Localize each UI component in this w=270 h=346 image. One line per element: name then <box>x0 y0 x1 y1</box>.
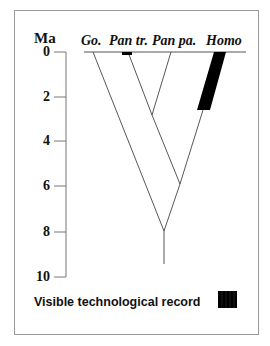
branch-pan-troglodytes <box>128 52 152 115</box>
branch-pan-paniscus <box>152 52 171 115</box>
branch-gorilla <box>93 52 164 231</box>
axis-ticks <box>54 52 66 277</box>
phylogeny-diagram: Ma 0 2 4 6 8 10 Go. Pan tr. Pan pa. Homo <box>0 0 270 346</box>
tree-branches <box>93 52 203 264</box>
tech-record-homo <box>197 52 226 110</box>
branch-hominine-stem <box>164 184 180 231</box>
legend-label: Visible technological record <box>34 295 201 309</box>
branch-homo <box>180 110 203 184</box>
tech-record-pan-troglodytes <box>122 52 132 55</box>
branch-pan-stem <box>152 115 180 184</box>
